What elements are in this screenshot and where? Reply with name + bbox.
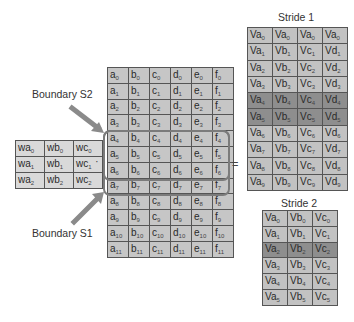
cell-index: 4 [302,281,305,287]
stride2-output-matrix: Va0Vb0Vc0Va1Vb1Vc1Va2Vb2Vc2Va3Vb3Vc3Va4V… [262,210,338,306]
cell-symbol: Vc [300,143,312,154]
stride1-cell: Va0 [323,28,348,44]
boundary-s2-label: Boundary S2 [32,88,93,100]
cell-index: 2 [327,249,330,255]
stride1-cell: Vc5 [298,109,323,125]
stride1-cell: Va2 [248,60,273,76]
cell-symbol: Vc [315,228,327,239]
stride1-title: Stride 1 [278,11,314,23]
stride2-row: Va3Vb3Vc3 [263,258,338,274]
stride1-cell: Vd9 [323,174,348,190]
cell-symbol: Vc [300,78,312,89]
cell-index: 3 [287,84,290,90]
stride1-cell: Vb4 [273,93,298,109]
cell-symbol: Va [265,228,277,239]
cell-symbol: Vb [290,243,302,254]
stride2-row: Va0Vb0Vc0 [263,211,338,227]
cell-symbol: Vb [275,45,287,56]
stride1-row: Va3Vb3Vc3Vd3 [248,76,348,92]
cell-symbol: Vd [325,127,337,138]
cell-index: 5 [337,117,340,123]
stride1-cell: Vb3 [273,76,298,92]
stride1-cell: Vb9 [273,174,298,190]
cell-index: 0 [302,218,305,224]
stride1-cell: Vb6 [273,125,298,141]
cell-index: 4 [287,100,290,106]
cell-symbol: Vd [325,45,337,56]
stride1-cell: Vc1 [298,44,323,60]
cell-index: 7 [312,149,315,155]
stride1-cell: Vb5 [273,109,298,125]
cell-symbol: Vd [325,111,337,122]
cell-index: 1 [287,51,290,57]
cell-index: 5 [262,117,265,123]
cell-index: 5 [277,297,280,303]
cell-index: 6 [262,133,265,139]
boundary-s1-label: Boundary S1 [32,227,93,239]
stride2-cell: Vc0 [313,211,338,227]
cell-index: 0 [262,35,265,41]
cell-symbol: Vd [325,160,337,171]
stride1-row: Va6Vb6Vc6Vd6 [248,125,348,141]
cell-symbol: Va [265,243,277,254]
cell-symbol: Va [250,62,262,73]
cell-index: 4 [262,100,265,106]
cell-index: 9 [337,182,340,188]
cell-index: 1 [327,234,330,240]
stride1-cell: Va5 [248,109,273,125]
cell-index: 8 [287,166,290,172]
cell-index: 3 [327,265,330,271]
stride1-cell: Va1 [248,44,273,60]
cell-index: 7 [262,149,265,155]
stride1-cell: Vb8 [273,158,298,174]
cell-symbol: Va [250,176,262,187]
stride1-cell: Vd1 [323,44,348,60]
stride2-row: Va2Vb2Vc2 [263,242,338,258]
stride2-cell: Vb4 [288,274,313,290]
equals-operator: = [232,158,238,170]
cell-index: 2 [262,68,265,74]
cell-symbol: Vc [300,94,312,105]
stride1-cell: Vc7 [298,142,323,158]
stride1-row: Va5Vb5Vc5Vd5 [248,109,348,125]
cell-index: 1 [312,51,315,57]
cell-symbol: Vb [290,259,302,270]
stride1-row: Va8Vb8Vc8Vd8 [248,158,348,174]
cell-symbol: Vb [290,275,302,286]
cell-symbol: Vb [290,212,302,223]
stride2-cell: Va1 [263,226,288,242]
cell-index: 2 [302,249,305,255]
cell-symbol: Vd [325,62,337,73]
stride1-cell: Vd5 [323,109,348,125]
cell-index: 4 [337,100,340,106]
cell-symbol: Va [250,127,262,138]
stride1-cell: Vb2 [273,60,298,76]
stride2-cell: Vb1 [288,226,313,242]
cell-symbol: Vb [275,143,287,154]
cell-index: 0 [287,35,290,41]
cell-symbol: Vb [275,62,287,73]
stride1-cell: Va6 [248,125,273,141]
cell-index: 9 [262,182,265,188]
stride1-cell: Va4 [248,93,273,109]
stride1-cell: Vd2 [323,60,348,76]
cell-index: 0 [327,218,330,224]
stride1-cell: Vc3 [298,76,323,92]
cell-index: 0 [277,218,280,224]
stride2-cell: Vc4 [313,274,338,290]
cell-symbol: Va [265,275,277,286]
cell-symbol: Va [250,78,262,89]
cell-index: 9 [287,182,290,188]
cell-symbol: Vc [300,176,312,187]
stride1-row: Va0Va0Va0Va0 [248,28,348,44]
cell-symbol: Va [275,29,287,40]
stride1-cell: Va9 [248,174,273,190]
cell-symbol: Vc [315,243,327,254]
cell-index: 5 [327,297,330,303]
cell-index: 7 [337,149,340,155]
cell-index: 4 [312,100,315,106]
cell-symbol: Vb [290,228,302,239]
cell-symbol: Va [250,160,262,171]
cell-index: 8 [262,166,265,172]
stride1-output-matrix: Va0Va0Va0Va0Va1Vb1Vc1Vd1Va2Vb2Vc2Vd2Va3V… [247,27,348,191]
